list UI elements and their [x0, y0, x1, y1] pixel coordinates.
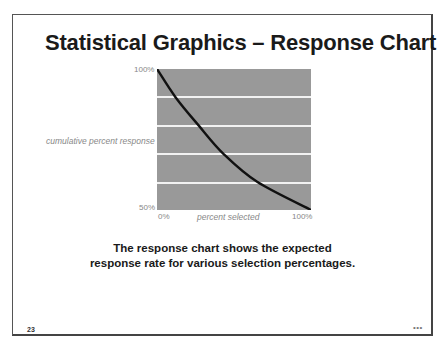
y-axis-label: cumulative percent response	[46, 136, 155, 146]
footer-mark: •••	[413, 323, 423, 332]
slide-caption: The response chart shows the expected re…	[0, 241, 445, 271]
y-tick-bottom: 50%	[139, 203, 155, 212]
x-axis-label: percent selected	[197, 212, 259, 222]
x-tick-right: 100%	[292, 212, 312, 221]
caption-line-2: response rate for various selection perc…	[0, 256, 445, 271]
response-curve	[157, 69, 311, 210]
caption-line-1: The response chart shows the expected	[0, 241, 445, 256]
x-tick-left: 0%	[158, 212, 170, 221]
slide-title: Statistical Graphics – Response Chart	[45, 30, 436, 56]
page-number: 23	[27, 326, 35, 333]
y-tick-top: 100%	[134, 65, 154, 74]
